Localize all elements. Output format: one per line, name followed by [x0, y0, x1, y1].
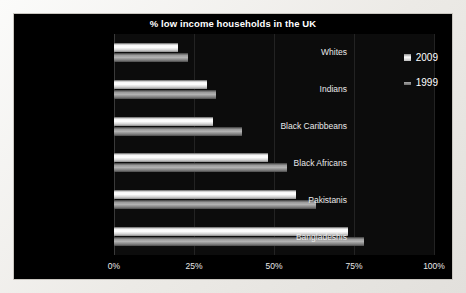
- x-tick-label: 0%: [108, 261, 120, 271]
- bar-group: [114, 145, 434, 182]
- bar-group: [114, 108, 434, 145]
- bar-group: [114, 34, 434, 71]
- category-label: Indians: [320, 84, 347, 94]
- x-tick-label: 100%: [423, 261, 445, 271]
- chart-legend: 2009 1999: [404, 52, 438, 88]
- bar-1999[interactable]: [114, 53, 188, 62]
- bar-1999[interactable]: [114, 127, 242, 136]
- bar-group: [114, 181, 434, 218]
- chart-title: % low income households in the UK: [14, 18, 452, 29]
- x-tick-label: 75%: [345, 261, 362, 271]
- bar-2009[interactable]: [114, 80, 207, 89]
- bar-group: [114, 71, 434, 108]
- legend-item-2009[interactable]: 2009: [404, 52, 438, 63]
- bar-1999[interactable]: [114, 200, 316, 209]
- bar-rows: [114, 34, 434, 255]
- bar-1999[interactable]: [114, 90, 216, 99]
- x-tick-label: 25%: [185, 261, 202, 271]
- chart-page: % low income households in the UK 0%25%5…: [0, 0, 466, 293]
- plot-area: [114, 34, 434, 255]
- bar-group: [114, 218, 434, 255]
- legend-swatch-icon-1999: [404, 82, 411, 85]
- bar-2009[interactable]: [114, 43, 178, 52]
- bar-2009[interactable]: [114, 190, 296, 199]
- category-label: Black Caribbeans: [280, 121, 347, 131]
- category-label: Pakistanis: [308, 195, 347, 205]
- category-label: Bangladeshis: [296, 232, 347, 242]
- legend-item-1999[interactable]: 1999: [404, 77, 438, 88]
- x-axis-ticks: 0%25%50%75%100%: [114, 261, 434, 277]
- bar-2009[interactable]: [114, 153, 268, 162]
- x-tick-label: 50%: [265, 261, 282, 271]
- bar-2009[interactable]: [114, 117, 213, 126]
- legend-swatch-icon-2009: [404, 54, 411, 61]
- chart-canvas: % low income households in the UK 0%25%5…: [13, 13, 453, 280]
- category-label: Black Africans: [294, 158, 347, 168]
- legend-label-1999: 1999: [416, 77, 438, 88]
- legend-label-2009: 2009: [416, 52, 438, 63]
- bar-1999[interactable]: [114, 163, 287, 172]
- category-label: Whites: [321, 47, 347, 57]
